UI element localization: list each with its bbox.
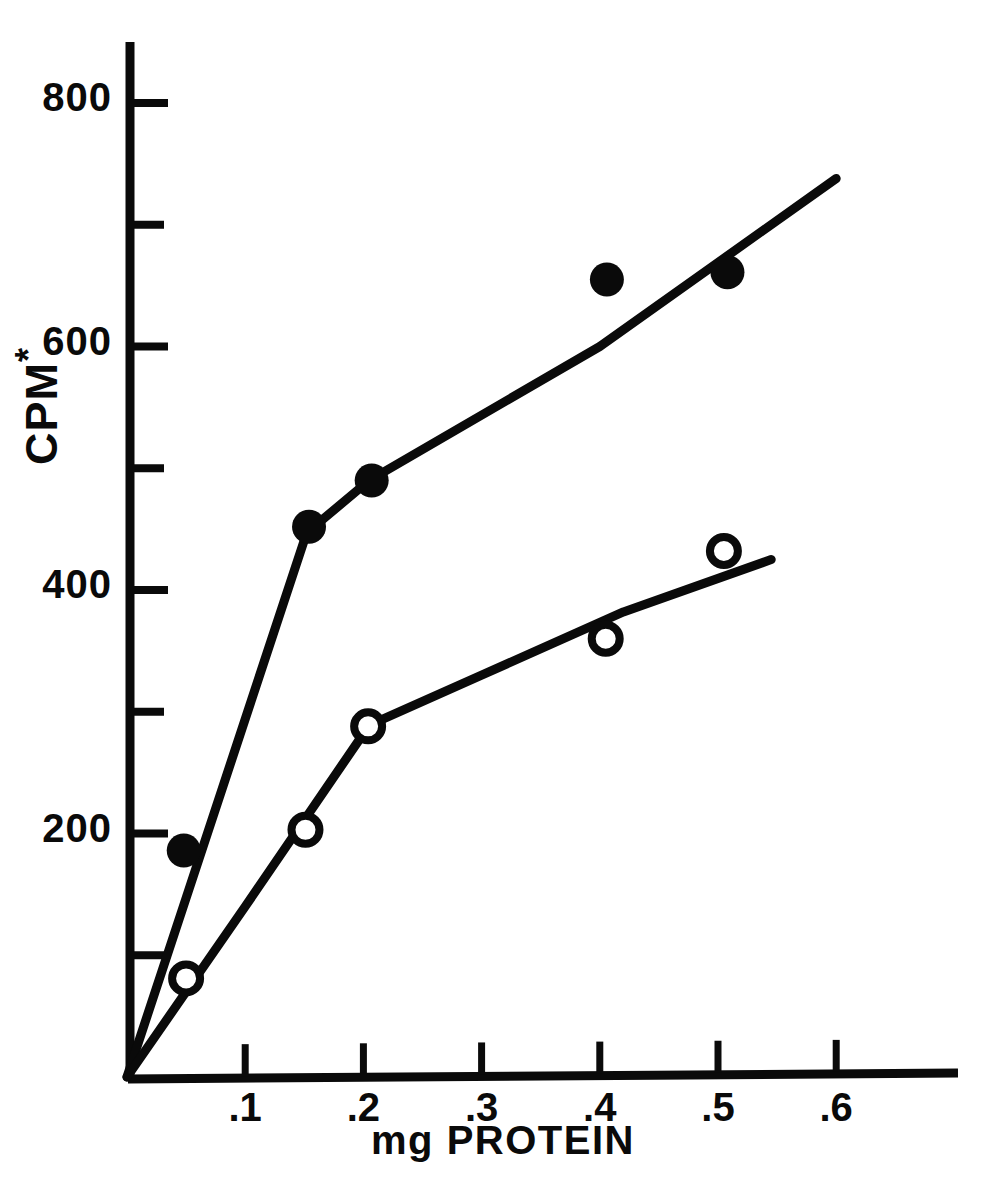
curve-open-circles	[127, 560, 771, 1077]
y-tick-label: 400	[0, 562, 112, 607]
data-point-filled	[355, 463, 389, 497]
curve-filled-circles	[127, 179, 836, 1078]
data-point-open	[710, 537, 738, 565]
data-point-open	[592, 625, 620, 653]
data-point-open	[291, 816, 319, 844]
y-axis-ticks	[130, 103, 168, 955]
y-axis-title: CPM*	[16, 286, 68, 526]
y-tick-label: 800	[0, 75, 112, 120]
axis-lines	[128, 42, 958, 1079]
data-curves	[127, 179, 836, 1078]
x-axis-line	[128, 1073, 958, 1079]
data-point-open	[172, 964, 200, 992]
data-point-filled	[167, 834, 201, 868]
y-tick-label: 200	[0, 806, 112, 851]
data-point-filled	[292, 510, 326, 544]
figure-panel: 200400600800 .1.2.3.4.5.6 CPM* mg PROTEI…	[0, 0, 1006, 1202]
data-point-open	[354, 712, 382, 740]
data-point-filled	[590, 263, 624, 297]
data-markers	[167, 255, 745, 992]
y-axis-title-text: CPM	[16, 362, 67, 465]
y-axis-title-superscript: *	[8, 347, 49, 362]
data-point-filled	[710, 255, 744, 289]
x-axis-title: mg PROTEIN	[0, 1118, 1006, 1163]
chart-canvas	[0, 0, 1006, 1202]
